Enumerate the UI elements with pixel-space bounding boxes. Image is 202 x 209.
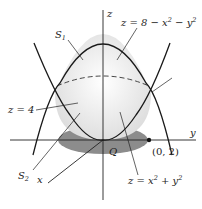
- y-axis-label: y: [189, 127, 196, 138]
- x-axis-label: x: [37, 174, 43, 185]
- upper-surface-equation: z = 8 − x2 − y2: [120, 16, 196, 28]
- s2-label: S2: [18, 170, 29, 183]
- s1-label: S1: [55, 29, 66, 42]
- z-axis-label: z: [106, 8, 113, 19]
- plane-z4-label: z = 4: [7, 104, 34, 115]
- lower-surface-equation: z = x2 + y2: [127, 174, 182, 186]
- diagram-canvas: z y x S1 S2 z = 8 − x2 − y2 z = x2 + y2 …: [0, 0, 202, 209]
- diagram-svg: z y x S1 S2 z = 8 − x2 − y2 z = x2 + y2 …: [0, 0, 202, 209]
- point-label: (0, 2): [152, 146, 179, 157]
- region-q-label: Q: [109, 146, 117, 157]
- point-0-2: [147, 138, 151, 142]
